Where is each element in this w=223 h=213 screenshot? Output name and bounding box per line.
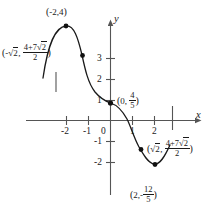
sqrt-icon: √2: [37, 43, 46, 52]
sqrt-icon: √2: [8, 49, 18, 58]
point-inflection: [108, 100, 113, 105]
label-right-point: (√2, 4+7√22): [147, 140, 193, 160]
x-tick-label--1: -1: [83, 127, 91, 137]
point-min: [153, 162, 158, 167]
y-tick-label--2: -2: [94, 158, 102, 168]
right-num-coeff: 4+7: [166, 138, 179, 148]
point-left: [80, 53, 85, 58]
plot-canvas: [0, 0, 223, 213]
x-axis-label: x: [196, 110, 201, 121]
left-fraction: 4+7√22: [23, 43, 48, 63]
right-num-radicand: 2: [183, 137, 188, 148]
min-fraction: 125: [143, 185, 154, 205]
paren-close: ): [136, 95, 139, 106]
min-denominator: 5: [143, 194, 154, 205]
label-left-point: (-√2, 4+7√22): [2, 44, 51, 64]
left-numerator: 4+7√2: [23, 43, 48, 52]
y-tick-label--1: -1: [94, 137, 102, 147]
x-tick-label--2: -2: [61, 127, 69, 137]
label-max-point: (-2,4): [46, 7, 67, 17]
x-tick-label-2: 2: [152, 127, 157, 137]
left-num-radicand: 2: [41, 41, 46, 52]
left-denominator: 2: [23, 52, 48, 63]
y-axis-label: y: [114, 14, 119, 25]
point-max: [64, 24, 69, 29]
sqrt-icon: √2: [179, 139, 188, 148]
max-x-value: -2: [49, 7, 57, 17]
sqrt-icon: √2: [150, 145, 160, 154]
center-denominator: 5: [129, 100, 135, 111]
min-numerator: 12: [143, 185, 154, 194]
right-fraction: 4+7√22: [165, 139, 190, 159]
paren-close: ): [154, 189, 157, 200]
right-denominator: 2: [165, 148, 190, 159]
paren-close: ): [64, 6, 67, 17]
point-right: [139, 147, 144, 152]
y-tick-label-1: 1: [97, 96, 102, 106]
left-num-coeff: 4+7: [24, 42, 37, 52]
right-numerator: 4+7√2: [165, 139, 190, 148]
center-numerator: 4: [129, 91, 135, 100]
paren-close: ): [190, 143, 193, 154]
x-tick-label-1: 1: [130, 127, 135, 137]
label-center-point: (0, 45): [117, 92, 139, 112]
paren-close: ): [48, 47, 51, 58]
center-fraction: 45: [129, 91, 135, 111]
y-tick-label-3: 3: [97, 54, 102, 64]
math-figure: x y -2 -1 0 1 2 1 2 3 -1 -2 (-2,4) (-√2,…: [0, 0, 223, 213]
label-min-point: (2,-125): [130, 186, 157, 206]
y-tick-label-2: 2: [97, 75, 102, 85]
